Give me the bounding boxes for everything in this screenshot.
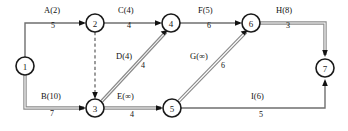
edge-duration-H: 3 <box>286 22 290 30</box>
arrowhead-icon <box>79 105 86 111</box>
edge-label-E: E(∞) <box>117 92 134 101</box>
edge-H-6-to-7 <box>260 23 328 57</box>
node-5[interactable]: 5 <box>163 99 181 117</box>
node-3-label: 3 <box>93 104 98 114</box>
edge-duration-C: 4 <box>127 22 131 30</box>
node-7-label: 7 <box>323 64 328 74</box>
edge-dummy-2-to-3 <box>92 32 98 99</box>
edge-duration-D: 4 <box>141 62 145 70</box>
edge-C-2-to-4 <box>104 20 162 26</box>
arrowhead-icon <box>322 50 328 57</box>
edge-duration-E: 4 <box>130 111 134 119</box>
edge-label-H: H(8) <box>276 6 292 15</box>
arrowhead-icon <box>322 79 328 86</box>
edge-D-3-to-4 <box>102 30 168 101</box>
edge-F-4-to-6 <box>180 20 242 26</box>
node-1[interactable]: 1 <box>16 57 34 75</box>
arrowhead-icon <box>79 20 86 26</box>
edge-duration-G: 6 <box>221 62 225 70</box>
node-4-label: 4 <box>169 19 174 29</box>
edge-duration-F: 6 <box>207 22 211 30</box>
node-1-label: 1 <box>23 62 28 72</box>
edge-label-C: C(4) <box>118 6 134 15</box>
edge-duration-B: 7 <box>50 110 54 118</box>
edge-label-B: B(10) <box>41 92 61 101</box>
node-2-label: 2 <box>93 19 98 29</box>
edge-label-I: I(6) <box>251 92 264 101</box>
node-3[interactable]: 3 <box>86 99 104 117</box>
node-7[interactable]: 7 <box>316 59 334 77</box>
node-4[interactable]: 4 <box>162 14 180 32</box>
edge-label-D: D(4) <box>116 52 132 61</box>
edge-G-5-to-6 <box>179 30 248 101</box>
edge-label-F: F(5) <box>198 6 213 15</box>
edge-A-1-to-2 <box>25 20 86 57</box>
edge-duration-A: 5 <box>51 22 55 30</box>
node-2[interactable]: 2 <box>86 14 104 32</box>
network-diagram-canvas: 1 2 3 4 5 6 7 A(2) 5 B(10) 7 C(4) 4 <box>0 0 348 131</box>
node-6-label: 6 <box>249 19 254 29</box>
node-5-label: 5 <box>170 104 175 114</box>
arrowhead-icon <box>92 92 98 99</box>
arrowhead-icon <box>235 20 242 26</box>
node-6[interactable]: 6 <box>242 14 260 32</box>
edge-duration-I: 5 <box>259 111 263 119</box>
edge-label-A: A(2) <box>44 6 60 15</box>
arrowhead-icon <box>156 105 163 111</box>
arrowhead-icon <box>155 20 162 26</box>
edge-label-G: G(∞) <box>190 52 208 61</box>
